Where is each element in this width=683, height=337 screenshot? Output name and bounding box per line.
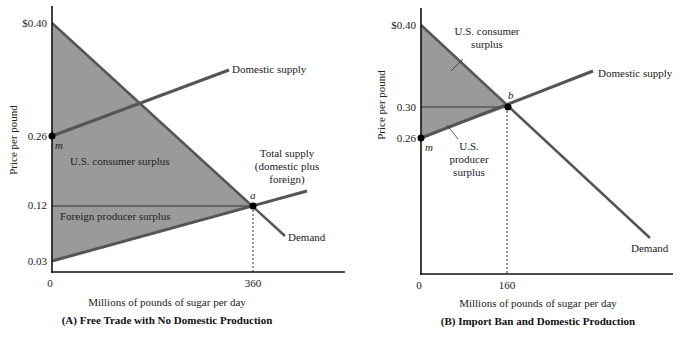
consumer-surplus-label-b-line2: surplus [471,38,503,50]
y-tick-026-a: 0.26 [28,130,48,142]
point-a [250,203,257,210]
consumer-surplus-label-a: U.S. consumer surplus [70,155,170,167]
point-m-label-a: m [55,139,63,151]
x-axis-label-b: Millions of pounds of sugar per day [459,297,617,309]
point-m-label-b: m [425,141,433,153]
y-tick-040-b: $0.40 [391,19,416,31]
y-axis-label-a: Price per pound [7,105,19,175]
x-tick-0-b: 0 [416,279,422,291]
point-b [505,104,512,111]
demand-label-b: Demand [631,242,669,254]
y-tick-003-a: 0.03 [28,255,48,267]
demand-curve-b [421,25,650,238]
total-supply-label-line1: Total supply [260,147,315,159]
panel-a: $0.40 0.26 0.12 0.03 0 360 Price per pou… [7,6,345,327]
point-a-label: a [250,189,256,201]
y-tick-030-b: 0.30 [397,101,417,113]
domestic-supply-label-a: Domestic supply [232,63,307,75]
producer-surplus-label-b-line2: producer [449,153,488,165]
foreign-producer-surplus-label: Foreign producer surplus [60,210,171,222]
total-supply-label-line2: (domestic plus [255,160,319,173]
y-tick-012-a: 0.12 [28,199,47,211]
total-supply-label-line3: foreign) [269,173,305,186]
figure: $0.40 0.26 0.12 0.03 0 360 Price per pou… [0,0,683,337]
y-axis-label-b: Price per pound [375,70,387,140]
x-axis-label-a: Millions of pounds of sugar per day [88,296,246,308]
producer-surplus-label-b-line3: surplus [453,166,485,178]
panel-title-b: (B) Import Ban and Domestic Production [441,315,635,328]
domestic-supply-label-b: Domestic supply [598,67,673,79]
panel-title-a: (A) Free Trade with No Domestic Producti… [62,314,273,327]
producer-surplus-label-b-line1: U.S. [459,140,479,152]
consumer-surplus-label-b-line1: U.S. consumer [454,25,519,37]
y-tick-040-a: $0.40 [22,17,47,29]
demand-label-a: Demand [288,231,326,243]
y-tick-026-b: 0.26 [397,132,417,144]
point-b-label: b [508,89,514,101]
point-m-b [418,135,425,142]
x-tick-0-a: 0 [47,277,53,289]
panel-b: $0.40 0.30 0.26 0 160 Price per pound Mi… [375,8,673,328]
x-tick-360-a: 360 [245,277,262,289]
x-tick-160-b: 160 [499,279,516,291]
